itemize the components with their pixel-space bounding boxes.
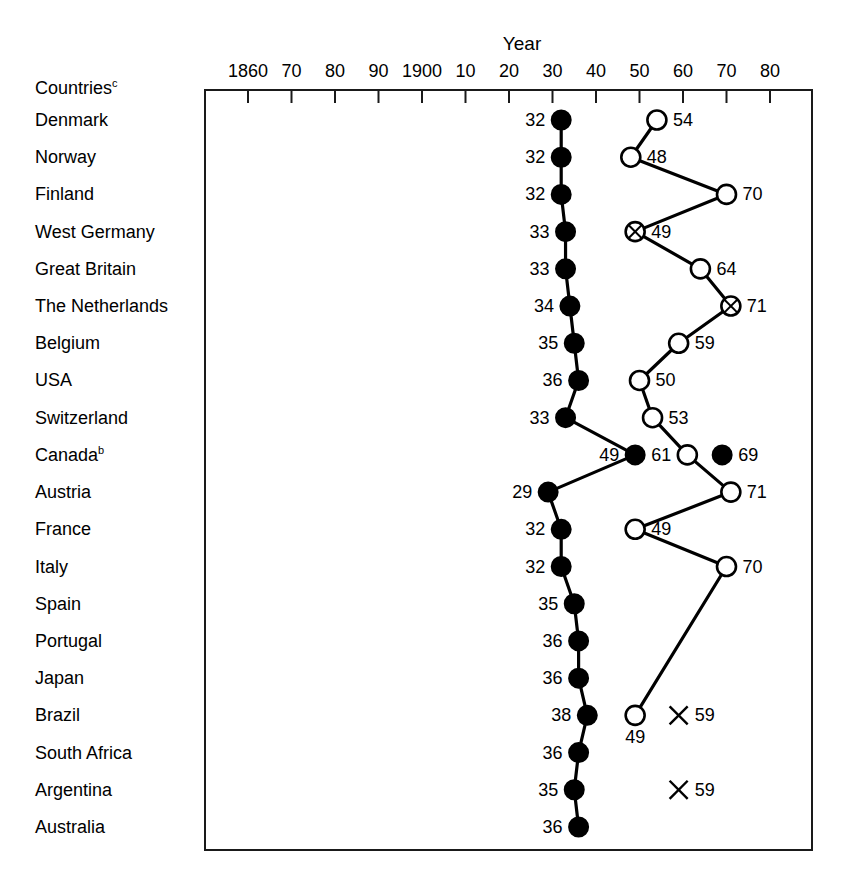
marker-first-series-japan [569,669,588,688]
filled-circle-marker [626,445,645,464]
marker-second-series-italy [717,557,736,576]
marker-second-series-brazil [626,706,645,725]
filled-circle-marker [552,148,571,167]
open-circle-marker [669,334,688,353]
filled-circle-marker [565,780,584,799]
marker-extra-filled-marker-canada [713,445,732,464]
filled-circle-marker [552,520,571,539]
marker-second-series-switzerland [643,408,662,427]
marker-first-series-usa [569,371,588,390]
marker-second-series-usa [630,371,649,390]
marker-second-series-great-britain [691,259,710,278]
marker-second-series-france [626,520,645,539]
filled-circle-marker [569,818,588,837]
marker-first-series-great-britain [556,259,575,278]
marker-second-series-finland [717,185,736,204]
marker-first-series-spain [565,594,584,613]
marker-first-series-australia [569,818,588,837]
filled-circle-marker [565,594,584,613]
chart-canvas: Year Countriesc 186070809019001020304050… [0,0,849,876]
filled-circle-marker [565,334,584,353]
open-circle-marker [691,259,710,278]
open-circle-marker [721,483,740,502]
marker-second-series-denmark [647,111,666,130]
plot-area [0,0,849,876]
marker-second-series-belgium [669,334,688,353]
marker-first-series-south-africa [569,743,588,762]
open-circle-marker [626,520,645,539]
open-circle-marker [626,706,645,725]
filled-circle-marker [552,557,571,576]
marker-first-series-finland [552,185,571,204]
marker-first-series-italy [552,557,571,576]
marker-first-series-argentina [565,780,584,799]
marker-second-series-austria [721,483,740,502]
marker-first-series-west-germany [556,222,575,241]
filled-circle-marker [552,111,571,130]
marker-first-series-denmark [552,111,571,130]
marker-first-series-belgium [565,334,584,353]
open-circle-marker [643,408,662,427]
marker-first-series-austria [539,483,558,502]
filled-circle-marker [552,185,571,204]
marker-first-series-france [552,520,571,539]
open-circle-marker [630,371,649,390]
open-circle-marker [717,557,736,576]
marker-first-series-switzerland [556,408,575,427]
marker-second-series-the-netherlands [721,297,740,316]
marker-first-series-the-netherlands [560,297,579,316]
filled-circle-marker [578,706,597,725]
open-circle-marker [647,111,666,130]
filled-circle-marker [569,631,588,650]
plot-frame [205,90,812,850]
marker-first-series-portugal [569,631,588,650]
marker-first-series-canada [626,445,645,464]
filled-circle-marker [713,445,732,464]
filled-circle-marker [560,297,579,316]
marker-second-series-norway [621,148,640,167]
open-circle-marker [678,445,697,464]
marker-cross-series-brazil [670,706,688,724]
filled-circle-marker [569,743,588,762]
filled-circle-marker [556,259,575,278]
open-circle-marker [717,185,736,204]
filled-circle-marker [556,222,575,241]
marker-first-series-brazil [578,706,597,725]
filled-circle-marker [539,483,558,502]
open-circle-marker [621,148,640,167]
marker-second-series-canada [678,445,697,464]
filled-circle-marker [569,669,588,688]
filled-circle-marker [569,371,588,390]
marker-second-series-west-germany [626,222,645,241]
filled-circle-marker [556,408,575,427]
marker-cross-series-argentina [670,781,688,799]
marker-first-series-norway [552,148,571,167]
